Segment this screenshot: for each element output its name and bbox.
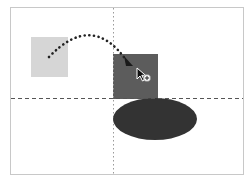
diagram-svg <box>0 0 250 184</box>
dark-ellipse <box>113 98 197 140</box>
target-square <box>113 54 158 99</box>
drag-drop-diagram <box>0 0 250 184</box>
